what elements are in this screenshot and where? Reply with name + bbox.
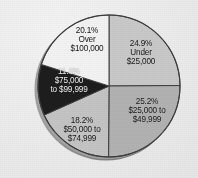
slice-label-line2: $100,000 xyxy=(56,45,118,54)
slice-label-25000-to-49999: 25.2% $25,000 to $49,999 xyxy=(116,98,178,125)
slice-label-under-25000: 24.9% Under $25,000 xyxy=(113,40,169,67)
slice-label-line2: $74,999 xyxy=(47,135,117,144)
chart-canvas: 24.9% Under $25,000 25.2% $25,000 to $49… xyxy=(0,0,198,178)
slice-label-50000-to-74999: 18.2% $50,000 to $74,999 xyxy=(47,117,117,144)
slice-label-75000-to-99999: 11.6% $75,000 to $99,999 xyxy=(38,68,100,95)
slice-label-line2: $25,000 xyxy=(113,58,169,67)
slice-label-line2: $49,999 xyxy=(116,116,178,125)
slice-label-line2: to $99,999 xyxy=(38,86,100,95)
slice-label-over-100000: 20.1% Over $100,000 xyxy=(56,27,118,54)
